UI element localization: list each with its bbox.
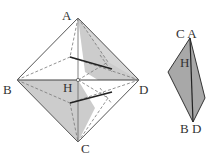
octahedron-diagram: A B C D H C A H B D (0, 0, 221, 156)
label-BD: B D (180, 121, 201, 136)
label-D: D (139, 82, 148, 97)
label-C: C (81, 141, 90, 156)
label-H: H (63, 80, 72, 95)
octahedron-left: A B C D H (3, 8, 148, 156)
projection-shape (168, 38, 205, 122)
label-A: A (62, 8, 72, 23)
label-H-right: H (180, 55, 189, 70)
shaded-face-lower-left (17, 80, 95, 142)
label-B: B (3, 82, 12, 97)
projection-right: C A H B D (168, 26, 205, 136)
point-H (76, 78, 79, 81)
label-CA: C A (176, 26, 197, 41)
